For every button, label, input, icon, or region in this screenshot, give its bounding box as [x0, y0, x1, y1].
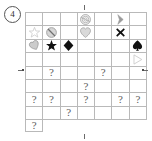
- puzzle-panel: 4 ??????????: [0, 0, 152, 141]
- grid-cell-r6c5[interactable]: [112, 80, 129, 93]
- grid-cell-r7c4[interactable]: [95, 93, 112, 106]
- question-mark: ?: [49, 67, 54, 78]
- grid-cell-r4c6[interactable]: [130, 53, 147, 66]
- tick-dot-right: [142, 69, 144, 71]
- grid-cell-r4c7[interactable]: [26, 67, 43, 80]
- grid-cell-r8c5[interactable]: [112, 107, 129, 120]
- question-mark: ?: [66, 107, 71, 118]
- grid-cell-r1c8[interactable]: [26, 26, 43, 39]
- no-entry-gray-icon: [45, 26, 58, 39]
- grid-cell-r7c1[interactable]: ?: [43, 93, 60, 106]
- question-mark: ?: [84, 81, 89, 92]
- grid-cell-r5c4[interactable]: ?: [95, 67, 112, 80]
- grid-cell-r5c3[interactable]: [78, 67, 95, 80]
- grid-cell-r7c7[interactable]: [26, 107, 43, 120]
- grid-cell-r1c3[interactable]: [61, 13, 78, 26]
- grid-cell-r5c2[interactable]: [61, 67, 78, 80]
- heart-gray-icon: [79, 26, 92, 39]
- circled-number-icon: 4: [4, 6, 21, 23]
- grid-cell-r3c1[interactable]: [43, 40, 60, 53]
- grid-cell-r1c6[interactable]: [112, 13, 129, 26]
- grid-cell-r1c1[interactable]: [26, 13, 43, 26]
- grid-cell-r2c2[interactable]: [61, 26, 78, 39]
- grid-cell-r6c4[interactable]: [95, 80, 112, 93]
- grid-cell-r1c7[interactable]: [130, 13, 147, 26]
- grid-cell-r7c6[interactable]: ?: [130, 93, 147, 106]
- tick-top-center: [84, 5, 85, 10]
- grid-cell-r8c2[interactable]: ?: [61, 107, 78, 120]
- grid-cell-r8c1[interactable]: [43, 107, 60, 120]
- grid-cell-r5c7[interactable]: [26, 80, 43, 93]
- question-mark: ?: [49, 94, 54, 105]
- grid-cell-r8c7[interactable]: ?: [26, 120, 43, 132]
- question-mark: ?: [118, 94, 123, 105]
- grid-cell-r8c4[interactable]: [95, 107, 112, 120]
- symbol-grid: ??????????: [25, 12, 147, 132]
- diamond-black-icon: [62, 40, 75, 53]
- tick-dot-left: [22, 69, 24, 71]
- grid-cell-r5c1[interactable]: ?: [43, 67, 60, 80]
- spade-black-icon: [131, 40, 144, 53]
- grid-cell-r6c6[interactable]: [130, 80, 147, 93]
- grid-cell-r1c5[interactable]: [95, 13, 112, 26]
- cross-black-icon: [114, 26, 127, 39]
- question-mark: ?: [32, 94, 37, 105]
- grid-cell-r3c5[interactable]: [112, 40, 129, 53]
- grid-cell-r5c6[interactable]: [130, 67, 147, 80]
- question-mark: ?: [32, 120, 37, 131]
- grid-cell-r3c6[interactable]: [130, 40, 147, 53]
- grid-cell-r4c3[interactable]: [78, 53, 95, 66]
- arrow-gray-icon: [114, 13, 127, 26]
- grid-cell-r1c4[interactable]: [78, 13, 95, 26]
- grid-cell-r6c1[interactable]: [43, 80, 60, 93]
- grid-cell-r2c3[interactable]: [78, 26, 95, 39]
- grid-cell-r4c4[interactable]: [95, 53, 112, 66]
- grid-cell-r8c3[interactable]: [78, 107, 95, 120]
- grid-cell-r7c2[interactable]: [61, 93, 78, 106]
- grid-cell-r7c3[interactable]: ?: [78, 93, 95, 106]
- grid-cell-r6c3[interactable]: ?: [78, 80, 95, 93]
- grid-cell-r1c2[interactable]: [43, 13, 60, 26]
- grid-cell-r3c7[interactable]: [26, 53, 43, 66]
- question-mark: ?: [135, 94, 140, 105]
- grid-cell-r4c2[interactable]: [61, 53, 78, 66]
- grid-cell-r6c2[interactable]: [61, 80, 78, 93]
- grid-cell-r8c6[interactable]: [130, 107, 147, 120]
- grid-cell-r2c4[interactable]: [95, 26, 112, 39]
- grid-cell-r3c4[interactable]: [95, 40, 112, 53]
- star-outline-icon: [28, 26, 41, 39]
- grid-cell-r3c3[interactable]: [78, 40, 95, 53]
- question-mark: ?: [84, 94, 89, 105]
- grid-cell-r5c5[interactable]: [112, 67, 129, 80]
- star-black-icon: [45, 40, 58, 53]
- grid-cell-r3c2[interactable]: [61, 40, 78, 53]
- grid-cell-r4c5[interactable]: [112, 53, 129, 66]
- triangle-outline-icon: [131, 53, 144, 66]
- grid-cell-r2c7[interactable]: [26, 40, 43, 53]
- grid-cell-r2c5[interactable]: [112, 26, 129, 39]
- grid-cell-r2c6[interactable]: [130, 26, 147, 39]
- question-mark: ?: [101, 67, 106, 78]
- grid-cell-r4c1[interactable]: [43, 53, 60, 66]
- tick-bottom-center: [84, 134, 85, 139]
- heart-gray-small-icon: [28, 40, 41, 53]
- grid-cell-r2c1[interactable]: [43, 26, 60, 39]
- grid-cell-r6c7[interactable]: ?: [26, 93, 43, 106]
- grid-cell-r7c5[interactable]: ?: [112, 93, 129, 106]
- spiral-gray-icon: [79, 13, 92, 26]
